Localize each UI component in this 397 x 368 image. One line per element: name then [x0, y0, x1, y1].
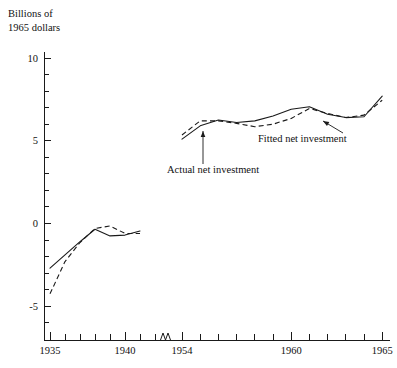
x-tick-label: 1935	[40, 345, 61, 356]
annotation-arrow-head	[323, 121, 329, 126]
y-tick-label: 0	[33, 218, 38, 229]
y-axis-caption-line2: 1965 dollars	[8, 22, 60, 33]
y-tick-label: 10	[28, 53, 39, 64]
net-investment-line-chart: Billions of 1965 dollars -50510 19351940…	[0, 0, 397, 368]
y-axis-caption-line1: Billions of	[8, 8, 53, 19]
series-actual-net-investment	[50, 229, 140, 268]
series-fitted-net-investment	[50, 226, 140, 294]
y-tick-label: 5	[33, 135, 38, 146]
annotation-label-fitted-net-investment: Fitted net investment	[258, 133, 347, 144]
annotation-label-actual-net-investment: Actual net investment	[167, 164, 259, 175]
x-tick-label: 1954	[172, 345, 194, 356]
y-tick-label: -5	[29, 301, 38, 312]
axis-break-symbol	[161, 333, 171, 340]
data-series-layer	[50, 96, 382, 294]
axis-break-zigzag-icon	[161, 333, 171, 340]
annotation-arrow-head	[201, 131, 206, 137]
chart-container: Billions of 1965 dollars -50510 19351940…	[0, 0, 397, 368]
x-axis-ticks	[50, 332, 382, 340]
y-axis-tick-labels: -50510	[28, 53, 39, 312]
x-tick-label: 1940	[115, 345, 136, 356]
x-tick-label: 1965	[372, 345, 393, 356]
annotation-layer: Actual net investmentFitted net investme…	[167, 121, 347, 175]
y-axis-ticks	[44, 58, 51, 323]
x-tick-label: 1960	[281, 345, 302, 356]
x-axis-tick-labels: 19351940195419601965	[40, 345, 393, 356]
